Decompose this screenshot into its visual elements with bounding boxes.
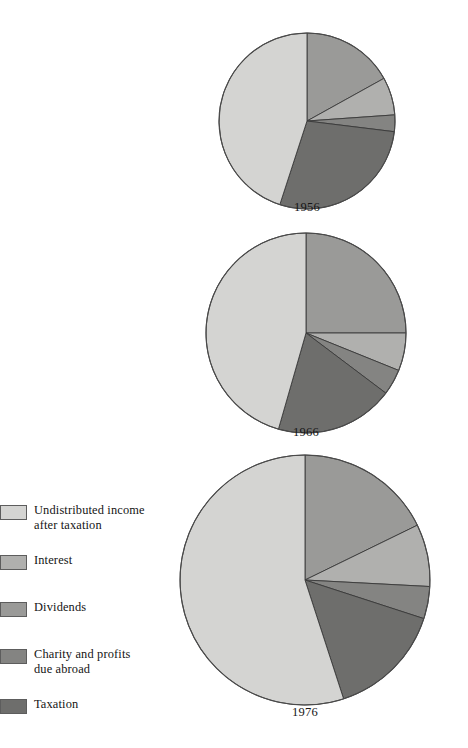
- pie-svg-1956: Dividends: 17%Interest: 7%Charity and pr…: [215, 29, 399, 213]
- pie-year-label-1956: 1956: [73, 201, 468, 214]
- pie-chart-1976: Dividends: 18%Interest: 8%Charity and pr…: [176, 451, 434, 709]
- legend-label-charity: Charity and profits due abroad: [34, 647, 130, 676]
- legend-swatch-taxation: [0, 699, 27, 714]
- legend-swatch-charity: [0, 649, 27, 664]
- pie-slice-1966-dividends: Dividends: 25%: [306, 233, 406, 333]
- legend-item-dividends: Dividends: [0, 600, 205, 626]
- legend-label-interest: Interest: [34, 553, 72, 568]
- pie-chart-figure: Dividends: 17%Interest: 7%Charity and pr…: [0, 0, 468, 748]
- legend-item-undistributed: Undistributed income after taxation: [0, 503, 205, 532]
- legend-item-interest: Interest: [0, 553, 205, 579]
- pie-year-label-1976: 1976: [71, 706, 468, 719]
- legend-item-charity: Charity and profits due abroad: [0, 647, 205, 676]
- pie-chart-1956: Dividends: 17%Interest: 7%Charity and pr…: [215, 29, 399, 213]
- legend-label-undistributed: Undistributed income after taxation: [34, 503, 145, 532]
- legend-label-dividends: Dividends: [34, 600, 86, 615]
- pie-svg-1976: Dividends: 18%Interest: 8%Charity and pr…: [176, 451, 434, 709]
- pie-year-label-1966: 1966: [72, 426, 468, 439]
- pie-chart-1966: Dividends: 25%Interest: 6%Charity and pr…: [202, 229, 410, 437]
- legend-swatch-interest: [0, 555, 27, 570]
- pie-svg-1966: Dividends: 25%Interest: 6%Charity and pr…: [202, 229, 410, 437]
- legend-swatch-dividends: [0, 602, 27, 617]
- legend-swatch-undistributed-income: [0, 505, 27, 520]
